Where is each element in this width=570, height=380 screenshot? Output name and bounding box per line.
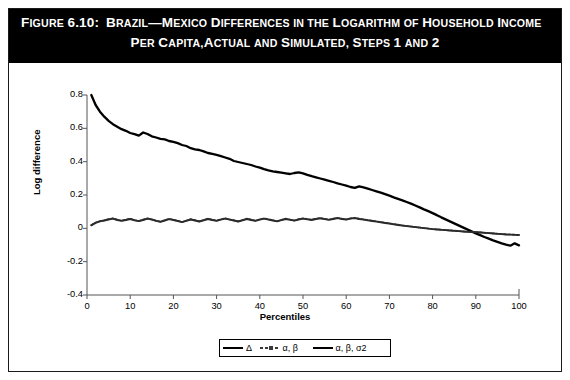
x-tick-label: 60 bbox=[329, 301, 363, 311]
x-tick-label: 20 bbox=[156, 301, 190, 311]
x-tick-label: 30 bbox=[200, 301, 234, 311]
legend-label-0: Δ bbox=[246, 340, 257, 356]
figure-card: FIGURE 6.10: BRAZIL—MEXICO DIFFERENCES I… bbox=[8, 8, 562, 372]
y-tick-label: 0.2 bbox=[49, 189, 83, 199]
x-tick-label: 100 bbox=[502, 301, 536, 311]
y-tick-label: 0.8 bbox=[49, 89, 83, 99]
y-tick-label: 0 bbox=[49, 222, 83, 232]
x-tick-label: 50 bbox=[286, 301, 320, 311]
figure-title-band: FIGURE 6.10: BRAZIL—MEXICO DIFFERENCES I… bbox=[9, 9, 561, 63]
x-tick-label: 10 bbox=[113, 301, 147, 311]
x-tick-label: 80 bbox=[416, 301, 450, 311]
y-tick-label: 0.4 bbox=[49, 156, 83, 166]
axis-lines bbox=[83, 95, 519, 299]
x-tick-label: 90 bbox=[459, 301, 493, 311]
series-line-0 bbox=[91, 95, 519, 246]
series-line-2 bbox=[91, 218, 519, 235]
legend-symbol-2 bbox=[310, 340, 336, 356]
y-axis-label: Log difference bbox=[31, 130, 42, 195]
legend-symbol-1 bbox=[257, 340, 283, 356]
legend-symbol-0 bbox=[220, 340, 246, 356]
x-tick-label: 0 bbox=[70, 301, 104, 311]
data-series-layer bbox=[91, 95, 519, 246]
chart-canvas bbox=[9, 63, 561, 323]
y-tick-label: -0.2 bbox=[49, 256, 83, 266]
y-axis-ticks: 0.80.60.40.20-0.2-0.4 bbox=[45, 63, 83, 311]
x-axis-label: Percentiles bbox=[9, 311, 561, 322]
legend-label-2: α, β, σ2 bbox=[336, 340, 390, 356]
y-tick-label: 0.6 bbox=[49, 122, 83, 132]
chart-legend: Δα, βα, β, σ2 bbox=[219, 339, 391, 357]
plot-area: Log difference 0.80.60.40.20-0.2-0.4 010… bbox=[9, 63, 561, 371]
x-tick-label: 70 bbox=[372, 301, 406, 311]
figure-title-line-1: FIGURE 6.10: BRAZIL—MEXICO DIFFERENCES I… bbox=[21, 15, 549, 30]
legend-label-1: α, β bbox=[283, 340, 310, 356]
legend-table: Δα, βα, β, σ2 bbox=[220, 340, 390, 356]
x-tick-label: 40 bbox=[243, 301, 277, 311]
figure-title-line-2: PER CAPITA,ACTUAL AND SIMULATED, STEPS 1… bbox=[21, 35, 549, 50]
